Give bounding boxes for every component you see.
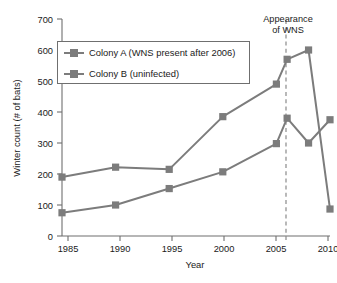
data-point-marker (112, 201, 119, 208)
x-tick-label-1985: 1985 (58, 244, 79, 254)
legend-swatch-colony-b-icon (64, 69, 84, 79)
data-point-marker (219, 113, 226, 120)
data-point-marker (58, 174, 65, 181)
x-axis-title: Year (186, 259, 205, 270)
data-point-marker (305, 46, 312, 53)
data-point-marker (305, 139, 312, 146)
data-point-marker (273, 81, 280, 88)
y-axis-title: Winter count (# of bats) (11, 79, 22, 176)
y-tick-label-600: 600 (37, 46, 53, 56)
data-point-marker (166, 166, 173, 173)
x-tick-label-2010: 2010 (318, 244, 337, 254)
appearance-of-wns-label-line1: Appearance (263, 14, 313, 24)
chart-container: 700 600 500 400 300 200 100 0 1985 1990 … (0, 0, 337, 283)
x-axis-ticks (68, 236, 328, 241)
legend-item-colony-a: Colony A (WNS present after 2006) (58, 42, 249, 63)
series-line (62, 118, 330, 213)
data-point-marker (166, 185, 173, 192)
y-tick-label-100: 100 (37, 201, 53, 211)
data-point-marker (112, 164, 119, 171)
y-tick-label-500: 500 (37, 77, 53, 87)
x-tick-label-2005: 2005 (266, 244, 287, 254)
data-point-marker (273, 140, 280, 147)
appearance-of-wns-label-line2: of WNS (272, 25, 304, 35)
data-point-marker (284, 115, 291, 122)
legend-label-colony-a: Colony A (WNS present after 2006) (89, 48, 235, 57)
x-tick-label-2000: 2000 (214, 244, 235, 254)
data-point-marker (326, 116, 333, 123)
y-tick-label-700: 700 (37, 15, 53, 25)
legend-marker-colony-b (70, 70, 78, 78)
legend-label-colony-b: Colony B (uninfected) (89, 69, 179, 78)
data-point-marker (219, 168, 226, 175)
y-tick-label-400: 400 (37, 108, 53, 118)
data-point-marker (284, 56, 291, 63)
x-tick-label-1995: 1995 (162, 244, 183, 254)
y-tick-label-300: 300 (37, 139, 53, 149)
y-tick-label-0: 0 (48, 232, 53, 242)
legend-item-colony-b: Colony B (uninfected) (58, 63, 249, 84)
data-point-marker (326, 205, 333, 212)
x-tick-label-1990: 1990 (110, 244, 131, 254)
data-point-marker (58, 209, 65, 216)
legend: Colony A (WNS present after 2006) Colony… (57, 41, 250, 84)
legend-marker-colony-a (70, 49, 78, 57)
y-tick-label-200: 200 (37, 170, 53, 180)
series-colony-b (58, 115, 333, 217)
legend-swatch-colony-a-icon (64, 48, 84, 58)
